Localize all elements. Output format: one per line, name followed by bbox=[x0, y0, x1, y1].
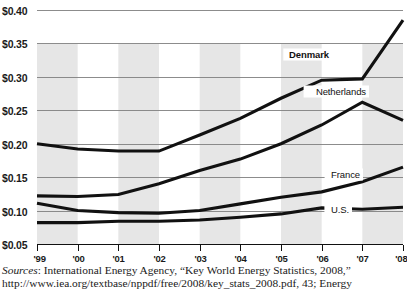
y-axis-tick-label: $0.15 bbox=[2, 172, 28, 184]
x-axis-tick-label: '05 bbox=[275, 253, 288, 263]
x-axis-tick-label: '08 bbox=[395, 253, 407, 263]
x-axis-tick-label: '04 bbox=[234, 253, 247, 263]
series-label-denmark: Denmark bbox=[289, 49, 330, 60]
source-line-2: http://www.iea.org/textbase/nppdf/free/2… bbox=[2, 277, 405, 290]
x-axis-tick-label: '99 bbox=[34, 253, 46, 263]
x-axis-tick-label: '03 bbox=[194, 253, 206, 263]
y-axis-tick-label: $0.35 bbox=[2, 38, 28, 50]
x-axis-tick-label: '00 bbox=[72, 253, 84, 263]
source-note: Sources: International Energy Agency, “K… bbox=[2, 264, 405, 290]
y-axis-tick-label: $0.05 bbox=[2, 239, 28, 251]
x-axis-tick-label: '06 bbox=[316, 253, 328, 263]
line-chart-figure: $0.40$0.35$0.30$0.25$0.20$0.15$0.10$0.05… bbox=[0, 0, 407, 297]
chart-shaded-band bbox=[362, 44, 403, 244]
chart-plot-area: $0.40$0.35$0.30$0.25$0.20$0.15$0.10$0.05… bbox=[0, 0, 407, 262]
source-line-1: Sources: International Energy Agency, “K… bbox=[2, 264, 405, 277]
x-axis-tick-label: '07 bbox=[356, 253, 368, 263]
y-axis-tick-label: $0.25 bbox=[2, 105, 28, 117]
y-axis-tick-label: $0.20 bbox=[2, 139, 28, 151]
chart-shaded-band bbox=[200, 44, 241, 244]
x-axis-tick-label: '01 bbox=[112, 253, 125, 263]
series-label-netherlands: Netherlands bbox=[316, 86, 366, 97]
y-axis-tick-label: $0.40 bbox=[2, 5, 28, 17]
source-line-1-rest: : International Energy Agency, “Key Worl… bbox=[38, 264, 351, 276]
source-lead-word: Sources bbox=[2, 264, 38, 276]
y-axis-tick-label: $0.30 bbox=[2, 72, 28, 84]
y-axis-tick-label: $0.10 bbox=[2, 206, 28, 218]
series-label-us: U.S. bbox=[331, 204, 349, 215]
x-axis-tick-label: '02 bbox=[153, 253, 165, 263]
series-label-france: France bbox=[331, 169, 360, 180]
